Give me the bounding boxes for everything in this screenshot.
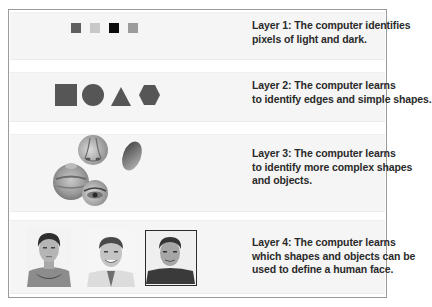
layer-3-caption: Layer 3: The computer learns to identify… [252, 147, 412, 188]
pixel-square-dark [71, 23, 81, 33]
eye-feature [82, 180, 108, 206]
face-photo-young-man [27, 227, 71, 287]
simple-shapes [55, 82, 175, 108]
layer-1-caption-line-1: Layer 1: The computer identifies [252, 19, 410, 33]
layer-4-caption: Layer 4: The computer learns which shape… [252, 236, 415, 277]
layer-1-caption: Layer 1: The computer identifies pixels … [252, 19, 410, 46]
facial-features [53, 136, 163, 208]
nose-feature [78, 135, 108, 165]
pixel-square-mid [128, 23, 138, 33]
layer-2-caption: Layer 2: The computer learns to identify… [252, 79, 432, 106]
layer-2-caption-line-2: to identify edges and simple shapes. [252, 93, 432, 107]
cheek-feature [118, 139, 145, 173]
circle-shape [82, 84, 104, 106]
pixel-square-light [90, 23, 100, 33]
layer-2-caption-line-1: Layer 2: The computer learns [252, 79, 432, 93]
square-shape [55, 84, 77, 106]
pixel-square-black [109, 23, 119, 33]
layer-1-caption-line-2: pixels of light and dark. [252, 33, 410, 47]
layer-4-caption-line-3: used to define a human face. [252, 263, 415, 277]
diagram-frame: Layer 1: The computer identifies pixels … [8, 9, 387, 298]
face-photo-smiling-man [87, 229, 135, 287]
triangle-shape [111, 87, 131, 106]
hexagon-shape [139, 85, 160, 105]
layer-3-caption-line-3: and objects. [252, 174, 412, 188]
layer-3-caption-line-1: Layer 3: The computer learns [252, 147, 412, 161]
layer-4-caption-line-1: Layer 4: The computer learns [252, 236, 415, 250]
layer-4-caption-line-2: which shapes and objects can be [252, 250, 415, 264]
face-photo-framed-man [145, 230, 197, 286]
layer-3-caption-line-2: to identify more complex shapes [252, 161, 412, 175]
